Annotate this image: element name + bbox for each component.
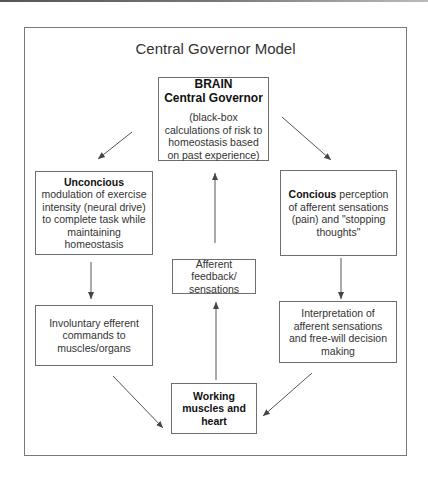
node-involuntary: Involuntary efferent commands to muscles… [35,305,153,366]
brain-heading-1: BRAIN [195,77,233,91]
interpretation-text: Interpretation of afferent sensations an… [284,307,392,357]
node-unconscious: Unconcious modulation of exercise intens… [35,171,153,255]
node-conscious: Concious perception of afferent sensatio… [280,170,397,256]
arrow-brain-to-unconscious [98,132,132,159]
conscious-text: Concious perception of afferent sensatio… [285,188,392,238]
working-text: Working muscles and heart [175,390,253,428]
unconscious-bold: Unconcious [64,176,124,188]
node-brain: BRAIN Central Governor (black-box calcul… [158,77,269,161]
unconscious-text: Unconcious modulation of exercise intens… [40,176,148,251]
arrow-interpretation-to-working [263,373,312,416]
involuntary-text: Involuntary efferent commands to muscles… [46,317,142,355]
afferent-text: Afferent feedback/ sensations [179,258,249,296]
brain-description: (black-box calculations of risk to homeo… [163,111,264,161]
node-working: Working muscles and heart [171,383,257,434]
node-afferent: Afferent feedback/ sensations [172,259,256,294]
conscious-bold: Concious [289,188,337,200]
brain-heading-2: Central Governor [164,91,263,105]
node-interpretation: Interpretation of afferent sensations an… [279,301,397,363]
arrow-involuntary-to-working [113,376,163,428]
unconscious-rest: modulation of exercise intensity (neural… [41,188,146,250]
arrow-brain-to-conscious [282,117,331,160]
